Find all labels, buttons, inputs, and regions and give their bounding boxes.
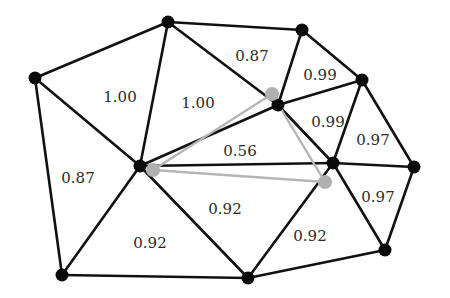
vertex-H xyxy=(408,161,421,174)
highlight-vertex-P3 xyxy=(318,175,332,189)
vertex-I xyxy=(379,244,392,257)
face-label-D-E-G: 0.99 xyxy=(311,113,344,131)
vertex-C xyxy=(296,24,309,37)
edge-A-B xyxy=(35,22,168,78)
vertex-K xyxy=(56,269,69,282)
edge-D-H xyxy=(362,80,414,167)
vertex-B xyxy=(162,16,175,29)
face-label-G-H-I: 0.97 xyxy=(361,188,394,206)
edge-J-K xyxy=(62,275,248,278)
highlight-vertex-P2 xyxy=(146,163,160,177)
face-label-C-D-E: 0.99 xyxy=(303,66,336,84)
edge-B-F xyxy=(140,22,168,166)
highlight-edge-P2-P3 xyxy=(153,170,325,182)
face-label-A-F-K: 0.87 xyxy=(61,169,94,187)
edge-H-I xyxy=(385,167,414,250)
face-label-F-J-K: 0.92 xyxy=(133,234,166,252)
edge-A-K xyxy=(35,78,62,275)
highlight-vertex-P1 xyxy=(265,87,279,101)
vertex-D xyxy=(356,74,369,87)
edge-F-G xyxy=(140,163,333,166)
face-labels: 1.001.000.870.990.990.970.560.870.920.97… xyxy=(61,47,394,252)
vertex-G xyxy=(327,157,340,170)
face-label-E-F-G: 0.56 xyxy=(223,142,256,160)
triangulation-diagram: 1.001.000.870.990.990.970.560.870.920.97… xyxy=(0,0,450,298)
edge-C-E xyxy=(278,30,302,105)
face-label-G-I-J: 0.92 xyxy=(293,227,326,245)
highlight-triangle-edges xyxy=(153,94,325,182)
face-label-A-B-F: 1.00 xyxy=(103,88,136,106)
edge-I-J xyxy=(248,250,385,278)
edge-F-J xyxy=(140,166,248,278)
highlight-triangle-vertices xyxy=(146,87,332,189)
edge-G-I xyxy=(333,163,385,250)
face-label-D-G-H: 0.97 xyxy=(356,131,389,149)
face-label-B-E-F: 1.00 xyxy=(181,94,214,112)
vertex-F xyxy=(134,160,147,173)
face-label-F-G-J: 0.92 xyxy=(208,200,241,218)
vertex-J xyxy=(242,272,255,285)
edge-G-H xyxy=(333,163,414,167)
edge-B-C xyxy=(168,22,302,30)
face-label-B-C-E: 0.87 xyxy=(235,47,268,65)
vertex-A xyxy=(29,72,42,85)
